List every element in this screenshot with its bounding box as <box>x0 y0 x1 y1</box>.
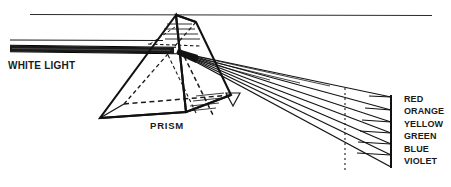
diagram-canvas <box>0 0 451 187</box>
dispersed-ray-red <box>196 56 391 97</box>
spectrum-label-blue: BLUE <box>404 143 451 155</box>
spectrum-band-divider-6 <box>357 153 391 155</box>
prism-internal-dashed-ray-upper <box>148 44 200 46</box>
dispersed-ray-green <box>196 59 391 133</box>
spectrum-label-yellow: YELLOW <box>404 118 451 130</box>
incident-white-light-beam <box>10 40 176 54</box>
spectrum-label-violet: VIOLET <box>404 155 451 167</box>
prism-internal-dashed-ray-apexline <box>150 25 178 44</box>
prism-base-front-edge <box>100 112 186 118</box>
dispersed-ray-fan <box>186 55 391 167</box>
spectrum-color-label-list: RED ORANGE YELLOW GREEN BLUE VIOLET <box>404 93 451 167</box>
spectrum-label-red: RED <box>404 93 451 105</box>
white-light-label: WHITE LIGHT <box>8 60 75 71</box>
prism-label: PRISM <box>150 120 184 131</box>
prism-hidden-base-rear-dashed <box>124 95 231 104</box>
spectrum-label-orange: ORANGE <box>404 105 451 117</box>
prism-dispersion-figure: WHITE LIGHT PRISM RED ORANGE YELLOW GREE… <box>0 0 451 187</box>
prism-apex-ridge <box>176 15 196 22</box>
dispersed-ray-fill-2 <box>188 56 300 83</box>
dispersed-ray-indigo <box>196 61 391 155</box>
beam-upper-guide-line <box>10 40 163 41</box>
spectrum-label-green: GREEN <box>404 130 451 142</box>
top-rule-line <box>30 15 432 16</box>
